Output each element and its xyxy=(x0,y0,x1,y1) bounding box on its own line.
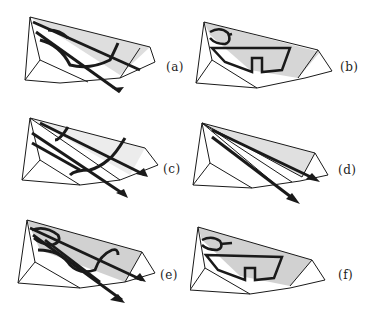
panel-label-d: (d) xyxy=(338,163,357,177)
panel-label-a: (a) xyxy=(166,60,184,74)
panel-f: (f) xyxy=(190,210,377,318)
wedge-diagram-a xyxy=(0,0,188,108)
panel-e: (e) xyxy=(0,210,188,318)
wedge-diagram-f xyxy=(190,210,377,320)
panel-label-b: (b) xyxy=(340,60,359,74)
panel-c: (c) xyxy=(0,105,188,213)
wedge-diagram-e xyxy=(0,210,188,320)
wedge-diagram-d xyxy=(190,105,377,213)
panel-label-f: (f) xyxy=(338,268,353,282)
wedge-diagram-b xyxy=(190,0,377,108)
wedge-diagram-c xyxy=(0,105,188,213)
panel-a: (a) xyxy=(0,0,188,108)
panel-label-c: (c) xyxy=(163,162,181,176)
panel-d: (d) xyxy=(190,105,377,213)
panel-label-e: (e) xyxy=(160,268,178,282)
panel-b: (b) xyxy=(190,0,377,108)
